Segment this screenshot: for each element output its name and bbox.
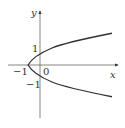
tick-label-x-neg1: −1 xyxy=(13,66,28,77)
tick-label-y-neg1: −1 xyxy=(26,79,41,90)
origin-label: 0 xyxy=(43,66,49,77)
tick-label-y-pos1: 1 xyxy=(32,43,38,54)
x-axis-label: x xyxy=(110,69,116,80)
y-axis-label: y xyxy=(30,7,37,18)
parabola-graph: y x 0 −1 1 −1 xyxy=(0,0,125,128)
